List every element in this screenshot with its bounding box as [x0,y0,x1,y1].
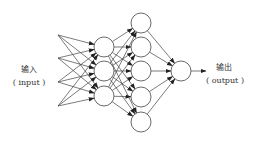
connection-arrow [112,102,133,117]
hidden2-node [131,37,151,57]
input-label-zh: 输入 [14,64,44,75]
hidden2-node [131,61,151,81]
hidden2-node [131,13,151,33]
hidden2-node [131,112,151,132]
output-node [171,61,191,81]
hidden2-node [131,87,151,107]
output-label-zh: 输出 [209,62,239,73]
connection-arrow [112,28,132,41]
connection-arrow [147,31,174,64]
hidden1-node [94,37,114,57]
connection-arrow [58,58,96,90]
connection-arrow [150,52,173,66]
connection-arrow [58,49,94,58]
connection-arrow [149,76,172,91]
input-label-en: ( input ) [6,77,52,88]
hidden1-node [94,86,114,106]
hidden1-node [94,61,114,81]
connection-arrow [58,35,94,44]
output-label-en: ( output ) [200,75,250,86]
